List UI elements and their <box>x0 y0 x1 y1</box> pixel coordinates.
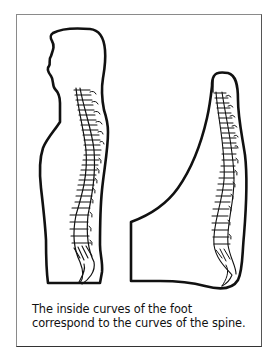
figure-caption: The inside curves of the foot correspond… <box>32 302 264 330</box>
foot-silhouette <box>131 72 247 288</box>
caption-line-2: correspond to the curves of the spine. <box>32 316 264 330</box>
human-silhouette <box>40 28 108 283</box>
human-spine <box>70 88 104 284</box>
foot-spine <box>212 92 238 286</box>
caption-line-1: The inside curves of the foot <box>32 302 264 316</box>
